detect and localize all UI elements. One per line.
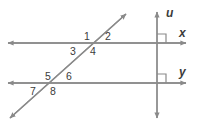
angle-label-1: 1 <box>84 31 90 42</box>
geometry-diagram: u x y 1 2 3 4 5 6 7 8 <box>0 0 200 128</box>
angle-label-3: 3 <box>70 46 76 57</box>
right-angle-marker-upper <box>157 34 166 43</box>
angle-label-7: 7 <box>30 86 36 97</box>
angle-label-8: 8 <box>50 86 56 97</box>
angle-label-5: 5 <box>45 71 51 82</box>
label-line-x: x <box>179 27 186 39</box>
right-angle-marker-lower <box>157 74 166 83</box>
label-line-y: y <box>179 66 186 78</box>
label-line-u: u <box>166 7 173 19</box>
angle-label-4: 4 <box>90 46 96 57</box>
angle-label-2: 2 <box>105 31 111 42</box>
angle-label-6: 6 <box>66 71 72 82</box>
